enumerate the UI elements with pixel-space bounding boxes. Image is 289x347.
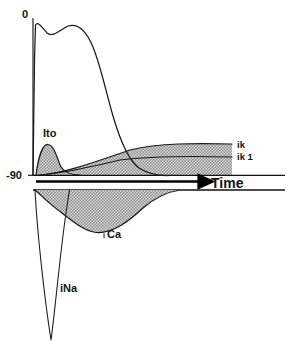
ik-label: ik (237, 139, 246, 150)
ica-label: Ca (107, 228, 122, 240)
ica-shaded-area (35, 190, 178, 233)
ik1-label: ik 1 (237, 151, 254, 162)
time-axis-label: Time (211, 175, 244, 191)
ina-label: iNa (60, 282, 78, 294)
action-potential-figure: 0 -90 Ito ik ik 1 Time i Ca iNa (0, 0, 289, 347)
y-axis-bottom-label: -90 (6, 169, 22, 181)
time-axis: Time (36, 175, 244, 191)
ica-subscript-label: i (103, 232, 105, 239)
lower-panel: i Ca iNa (33, 190, 285, 340)
upper-panel: 0 -90 Ito ik ik 1 (6, 8, 285, 181)
ito-label: Ito (43, 127, 57, 139)
y-axis-top-label: 0 (22, 8, 28, 20)
